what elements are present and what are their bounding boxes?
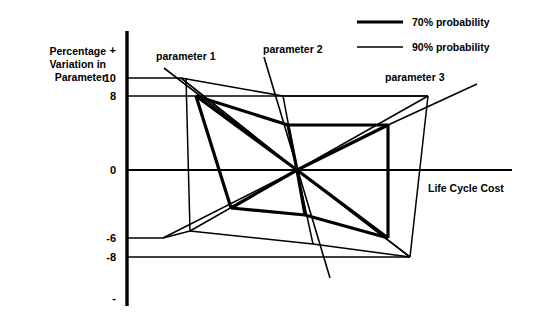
thick-env-upper-left: [196, 96, 288, 125]
sensitivity-spider-chart: Percentage Variation in Parameter + 10 8…: [0, 0, 536, 319]
y-tick-neg8: -8: [86, 251, 116, 263]
y-tick-plus: +: [86, 44, 116, 56]
axes-group: [127, 31, 512, 306]
p3-thick-upper: [297, 125, 388, 170]
y-tick-8: 8: [86, 90, 116, 102]
callout-parameter-3: parameter 3: [385, 71, 445, 83]
p3-thin-vertical: [410, 96, 428, 257]
legend-label-70: 70% probability: [412, 16, 490, 28]
x-axis-title: Life Cycle Cost: [428, 182, 504, 194]
p1-thick-lower: [231, 170, 297, 208]
leader-parameter-2: [264, 57, 330, 278]
legend-label-90: 90% probability: [412, 41, 490, 53]
callout-leader-lines: [164, 57, 477, 278]
y-tick-neg6: -6: [86, 232, 116, 244]
env-lower-left: [163, 231, 190, 238]
legend-swatches: [355, 13, 415, 53]
leader-parameter-3: [388, 84, 477, 125]
y-tick-0: 0: [86, 164, 116, 176]
env-lower-mid: [190, 231, 313, 244]
y-tick-minus: -: [86, 292, 116, 304]
p1-thin-vertical: [186, 78, 190, 231]
y-tick-10: 10: [86, 72, 116, 84]
y-axis-title-line-2: Variation in: [6, 58, 106, 71]
callout-parameter-2: parameter 2: [263, 43, 323, 55]
callout-parameter-1: parameter 1: [156, 50, 216, 62]
thick-env-lower-left: [231, 208, 305, 215]
